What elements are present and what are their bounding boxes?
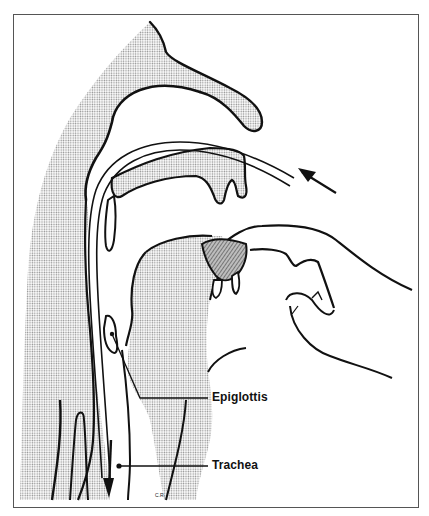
- trachea-label: Trachea: [212, 458, 258, 472]
- uvula: [105, 196, 115, 251]
- artist-signature: C.R.: [155, 492, 165, 498]
- tube-entry-arrow-icon: [298, 168, 336, 193]
- anterior-neck-line: [208, 348, 246, 372]
- examining-hand: [202, 225, 412, 378]
- anatomy-illustration: [0, 0, 429, 516]
- epiglottis-label: Epiglottis: [212, 390, 268, 404]
